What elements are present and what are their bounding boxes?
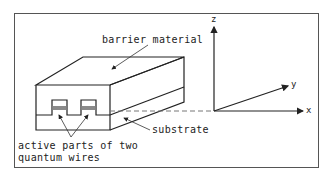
active-parts-label-line2: quantum wires <box>18 152 100 164</box>
semiconductor-block <box>36 57 184 130</box>
active-parts-label-line1: active parts of two <box>18 140 138 152</box>
active-wire-2 <box>82 106 96 110</box>
substrate-label: substrate <box>152 124 209 136</box>
active-pointer-arrow-2 <box>71 115 88 137</box>
y-axis <box>214 86 288 111</box>
y-axis-label: y <box>291 78 297 90</box>
barrier-material-label: barrier material <box>102 34 203 46</box>
x-axis-label: x <box>306 104 312 116</box>
active-pointer-arrow-1 <box>59 115 71 137</box>
active-wire-1 <box>53 106 67 110</box>
z-axis-label: z <box>211 13 217 25</box>
